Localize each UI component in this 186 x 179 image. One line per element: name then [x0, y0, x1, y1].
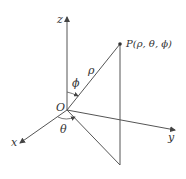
origin-label: O	[56, 101, 65, 114]
phi-arc	[67, 92, 78, 96]
theta-arc	[58, 117, 75, 119]
phi-label: ϕ	[72, 77, 80, 90]
point-p	[118, 42, 122, 46]
z-axis-label: z	[56, 13, 63, 26]
spherical-coordinates-diagram: z P(ρ, θ, ϕ) ρ ϕ O θ x y	[0, 0, 186, 179]
x-axis-label: x	[11, 136, 18, 149]
y-axis-label: y	[167, 131, 175, 144]
theta-label: θ	[60, 123, 67, 136]
point-label: P(ρ, θ, ϕ)	[125, 38, 172, 49]
rho-label: ρ	[87, 64, 95, 77]
